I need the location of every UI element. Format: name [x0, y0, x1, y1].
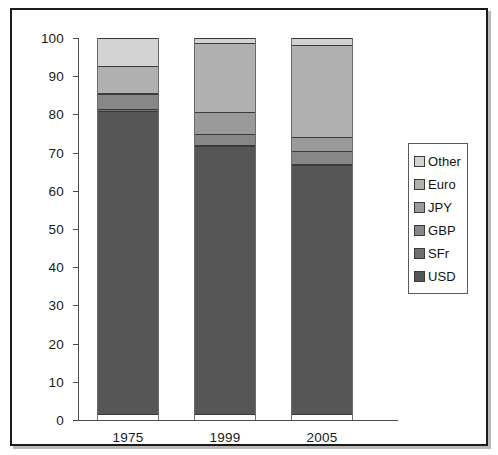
legend-swatch-icon: [414, 179, 425, 190]
y-axis-tick-label: 80: [49, 107, 64, 122]
y-axis-tick: [73, 344, 78, 345]
legend-item-euro[interactable]: Euro: [414, 173, 467, 196]
legend-label: GBP: [428, 223, 456, 238]
figure-frame: 0102030405060708090100 197519992005 Othe…: [10, 8, 488, 446]
bar-segment-1999-USD: [195, 146, 255, 415]
bar-segment-1999-Euro: [195, 43, 255, 114]
y-axis-tick: [73, 420, 78, 421]
bar-segment-1975-Euro: [98, 66, 158, 95]
legend-swatch-icon: [414, 271, 425, 282]
y-axis-tick-label: 10: [49, 374, 64, 389]
legend-item-gbp[interactable]: GBP: [414, 219, 467, 242]
bar-1975: [97, 38, 159, 420]
bar-segment-1999-JPY: [195, 112, 255, 135]
y-axis-tick-label: 70: [49, 145, 64, 160]
legend-item-sfr[interactable]: SFr: [414, 242, 467, 265]
bar-1999: [194, 38, 256, 420]
y-axis-tick-label: 90: [49, 69, 64, 84]
y-axis-tick: [73, 191, 78, 192]
legend-swatch-icon: [414, 225, 425, 236]
legend-swatch-icon: [414, 202, 425, 213]
bar-segment-2005-JPY: [292, 137, 352, 152]
y-axis-tick-label: 50: [49, 222, 64, 237]
y-axis-tick-label: 60: [49, 183, 64, 198]
y-axis-tick-label: 40: [49, 260, 64, 275]
y-axis-tick: [73, 305, 78, 306]
y-axis-tick-label: 30: [49, 298, 64, 313]
chart-figure: 0102030405060708090100 197519992005 Othe…: [0, 0, 498, 455]
legend-label: JPY: [428, 200, 452, 215]
legend-item-jpy[interactable]: JPY: [414, 196, 467, 219]
y-axis-tick: [73, 153, 78, 154]
y-axis-tick: [73, 114, 78, 115]
y-axis-tick-label: 100: [41, 31, 64, 46]
legend: OtherEuroJPYGBPSFrUSD: [408, 143, 468, 294]
y-axis-tick: [73, 267, 78, 268]
y-axis-tick-label: 20: [49, 336, 64, 351]
legend-swatch-icon: [414, 156, 425, 167]
legend-label: SFr: [428, 246, 449, 261]
y-axis-tick: [73, 382, 78, 383]
bar-segment-1975-Other: [98, 38, 158, 67]
y-axis-tick: [73, 38, 78, 39]
y-axis-tick-label: 0: [56, 413, 64, 428]
y-axis-tick: [73, 229, 78, 230]
bar-segment-2005-USD: [292, 165, 352, 415]
x-axis-tick-label: 1975: [113, 430, 144, 445]
bar-2005: [291, 38, 353, 420]
y-axis-tick: [73, 76, 78, 77]
bar-segment-2005-Euro: [292, 45, 352, 139]
plot-area: 0102030405060708090100 197519992005: [78, 38, 398, 421]
legend-item-other[interactable]: Other: [414, 150, 467, 173]
legend-label: USD: [428, 269, 456, 284]
legend-item-usd[interactable]: USD: [414, 265, 467, 288]
y-axis-line: [78, 38, 79, 421]
bar-segment-1975-GBP: [98, 94, 158, 109]
bar-segment-1975-USD: [98, 111, 158, 415]
x-axis-line: [78, 420, 398, 421]
legend-label: Other: [428, 154, 461, 169]
legend-label: Euro: [428, 177, 456, 192]
x-axis-tick-label: 1999: [210, 430, 241, 445]
bar-segment-2005-GBP: [292, 151, 352, 164]
legend-swatch-icon: [414, 248, 425, 259]
x-axis-tick-label: 2005: [307, 430, 338, 445]
